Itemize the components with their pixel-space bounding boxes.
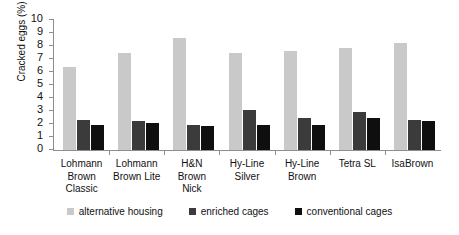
category-label-line: Brown (50, 171, 113, 184)
bar-alt (339, 48, 352, 150)
bar-enr (408, 120, 421, 150)
y-axis-tick: 3 (49, 110, 54, 111)
bar-con (201, 126, 214, 150)
x-axis-separator (219, 150, 220, 155)
y-axis-tick-label: 3 (37, 104, 43, 115)
category-label-line: Classic (50, 183, 113, 196)
x-axis-separator (164, 150, 165, 155)
bar-con (257, 125, 270, 150)
legend-label: enriched cages (201, 206, 269, 217)
legend-item[interactable]: enriched cages (189, 206, 269, 217)
category-label-line: Lohmann (50, 158, 113, 171)
x-axis-separator (330, 150, 331, 155)
legend-swatch-icon (295, 208, 302, 215)
x-axis-separator (109, 150, 110, 155)
legend-swatch-icon (67, 208, 74, 215)
bar-enr (243, 110, 256, 150)
y-axis-tick: 1 (49, 136, 54, 137)
x-axis-category-label: H&NBrownNick (160, 158, 223, 196)
y-axis-tick: 5 (49, 84, 54, 85)
y-axis-tick: 8 (49, 45, 54, 46)
x-axis-separator (275, 150, 276, 155)
y-axis-tick: 7 (49, 58, 54, 59)
x-axis-category-label: Tetra SL (326, 158, 389, 171)
bar-group (284, 20, 325, 150)
category-label-line: Tetra SL (326, 158, 389, 171)
bar-con (367, 118, 380, 151)
bar-group (173, 20, 214, 150)
legend-label: conventional cages (307, 206, 393, 217)
y-axis-title: Cracked eggs (%) (16, 0, 27, 107)
plot-area: 012345678910 (54, 20, 440, 150)
bar-enr (187, 125, 200, 150)
x-axis-category-label: Hy-LineSilver (215, 158, 278, 183)
x-axis-category-label: IsaBrown (381, 158, 444, 171)
x-axis-category-label: LohmannBrownClassic (50, 158, 113, 196)
bar-con (91, 125, 104, 150)
bar-enr (77, 120, 90, 150)
bar-group (394, 20, 435, 150)
bar-alt (394, 43, 407, 150)
legend-swatch-icon (189, 208, 196, 215)
y-axis-tick-label: 10 (31, 13, 43, 24)
y-axis-tick: 2 (49, 123, 54, 124)
bar-alt (173, 38, 186, 150)
x-axis-separator (385, 150, 386, 155)
bar-alt (63, 67, 76, 150)
category-label-line: H&N (160, 158, 223, 171)
category-label-line: IsaBrown (381, 158, 444, 171)
bar-con (146, 123, 159, 150)
y-axis-tick-label: 5 (37, 78, 43, 89)
y-axis-tick-label: 4 (37, 91, 43, 102)
bar-alt (229, 53, 242, 151)
y-axis-tick: 10 (49, 19, 54, 20)
legend-item[interactable]: conventional cages (295, 206, 393, 217)
y-axis-tick-label: 8 (37, 39, 43, 50)
category-label-line: Brown Lite (105, 171, 168, 184)
y-axis-tick-label: 7 (37, 52, 43, 63)
category-label-line: Silver (215, 171, 278, 184)
category-label-line: Brown (271, 171, 334, 184)
bar-group (118, 20, 159, 150)
bar-con (422, 121, 435, 150)
x-axis-category-label: LohmannBrown Lite (105, 158, 168, 183)
bar-group (63, 20, 104, 150)
bar-enr (353, 112, 366, 150)
x-axis-category-label: Hy-LineBrown (271, 158, 334, 183)
y-axis-tick-label: 9 (37, 26, 43, 37)
bar-group (229, 20, 270, 150)
bar-alt (284, 51, 297, 150)
x-axis-line (53, 150, 441, 151)
category-label-line: Hy-Line (215, 158, 278, 171)
bar-alt (118, 53, 131, 151)
y-axis-tick: 9 (49, 32, 54, 33)
bar-chart: Cracked eggs (%) 012345678910 LohmannBro… (0, 0, 459, 235)
y-axis-tick: 0 (49, 149, 54, 150)
legend-label: alternative housing (79, 206, 163, 217)
bar-group (339, 20, 380, 150)
y-axis-tick: 4 (49, 97, 54, 98)
y-axis-tick-label: 2 (37, 117, 43, 128)
y-axis-tick-label: 1 (37, 130, 43, 141)
y-axis-tick: 6 (49, 71, 54, 72)
y-axis-tick-label: 0 (37, 143, 43, 154)
category-label-line: Lohmann (105, 158, 168, 171)
category-label-line: Nick (160, 183, 223, 196)
legend-item[interactable]: alternative housing (67, 206, 163, 217)
chart-legend: alternative housingenriched cagesconvent… (0, 206, 459, 217)
bar-enr (132, 121, 145, 150)
category-label-line: Brown (160, 171, 223, 184)
y-axis-tick-label: 6 (37, 65, 43, 76)
category-label-line: Hy-Line (271, 158, 334, 171)
bar-con (312, 125, 325, 150)
bar-enr (298, 118, 311, 150)
